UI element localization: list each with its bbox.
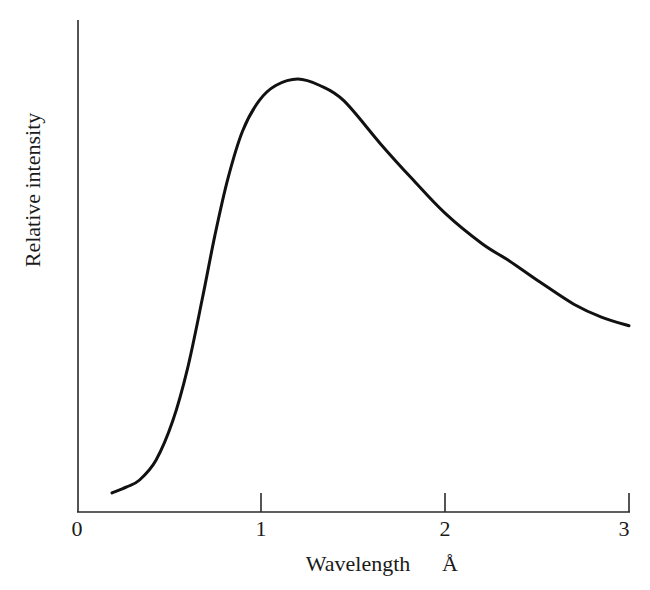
x-tick-label-1: 1: [256, 516, 267, 541]
intensity-curve: [112, 79, 629, 493]
x-axis-unit: Å: [442, 551, 458, 576]
x-tick-label-2: 2: [440, 516, 451, 541]
y-axis-title: Relative intensity: [20, 113, 45, 268]
x-tick-label-0: 0: [72, 516, 83, 541]
intensity-wavelength-chart: 0 1 2 3 Wavelength Å Relative intensity: [0, 0, 650, 590]
x-axis-ticks: [77, 493, 629, 512]
x-axis-title: Wavelength: [306, 551, 411, 576]
x-tick-label-3: 3: [619, 516, 630, 541]
